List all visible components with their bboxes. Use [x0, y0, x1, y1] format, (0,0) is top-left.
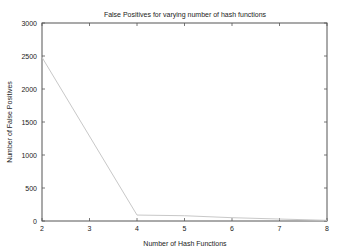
y-tick-label: 0 — [33, 218, 37, 225]
x-tick-label: 8 — [325, 225, 329, 232]
x-tick-label: 6 — [230, 225, 234, 232]
data-line — [42, 57, 327, 220]
chart-canvas: 2345678 050010001500200025003000 False P… — [0, 0, 340, 252]
y-axis-ticks: 050010001500200025003000 — [21, 20, 327, 225]
x-axis-ticks: 2345678 — [40, 23, 329, 232]
x-tick-label: 4 — [135, 225, 139, 232]
y-tick-label: 2500 — [21, 53, 37, 60]
y-tick-label: 1000 — [21, 152, 37, 159]
x-tick-label: 5 — [183, 225, 187, 232]
x-tick-label: 3 — [88, 225, 92, 232]
y-tick-label: 3000 — [21, 20, 37, 27]
y-tick-label: 1500 — [21, 119, 37, 126]
x-tick-label: 7 — [278, 225, 282, 232]
chart: 2345678 050010001500200025003000 False P… — [0, 0, 340, 252]
x-axis-title: Number of Hash Functions — [143, 240, 227, 247]
y-tick-label: 500 — [25, 185, 37, 192]
y-tick-label: 2000 — [21, 86, 37, 93]
plot-border — [42, 23, 327, 221]
y-axis-title: Number of False Positives — [6, 81, 13, 163]
plot-frame — [42, 23, 327, 221]
chart-title: False Positives for varying number of ha… — [104, 11, 267, 19]
x-tick-label: 2 — [40, 225, 44, 232]
series-layer — [42, 57, 327, 220]
